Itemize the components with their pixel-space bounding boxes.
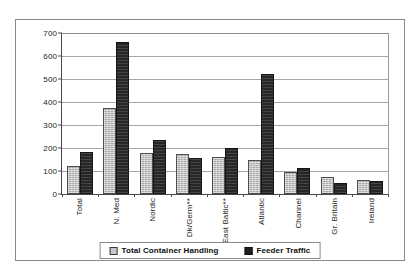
x-axis-labels: TotalN. MedNordicDk/Germ**East Baltic**A…	[61, 196, 389, 248]
legend-swatch-icon	[110, 247, 118, 255]
x-axis-label: Gr. Britain	[330, 198, 339, 235]
x-axis-label-cell: Ireland	[353, 196, 389, 248]
bar[interactable]	[248, 160, 261, 194]
y-axis-tick-label: 600	[43, 52, 57, 61]
bar-group	[352, 33, 388, 194]
bar[interactable]	[189, 158, 202, 194]
x-axis-label-cell: Total	[61, 196, 97, 248]
y-axis-tick-label: 500	[43, 75, 57, 84]
y-axis-tick-label: 200	[43, 144, 57, 153]
bar[interactable]	[153, 140, 166, 194]
x-axis-label-cell: Gr. Britain	[316, 196, 352, 248]
x-axis-label: Nordic	[148, 198, 157, 222]
x-axis-label: Dk/Germ**	[184, 198, 193, 237]
bar-group	[171, 33, 207, 194]
chart-legend: Total Container HandlingFeeder Traffic	[100, 242, 321, 259]
bar-group	[134, 33, 170, 194]
bar[interactable]	[284, 172, 297, 194]
bar[interactable]	[80, 152, 93, 194]
legend-label: Feeder Traffic	[257, 246, 311, 255]
bar[interactable]	[176, 154, 189, 194]
x-axis-label-cell: Atlantic	[243, 196, 279, 248]
bar[interactable]	[370, 181, 383, 194]
bar[interactable]	[334, 183, 347, 194]
bar[interactable]	[67, 166, 80, 194]
y-axis-tick-label: 700	[43, 29, 57, 38]
bar[interactable]	[140, 153, 153, 194]
bar[interactable]	[212, 157, 225, 194]
bar-series-layer	[62, 33, 388, 194]
y-axis-tick-label: 400	[43, 98, 57, 107]
x-axis-label: Ireland	[366, 198, 375, 223]
y-axis-tick-label: 0	[52, 190, 57, 199]
bar[interactable]	[261, 74, 274, 194]
bar[interactable]	[321, 177, 334, 194]
x-axis-label: Atlantic	[257, 198, 266, 225]
bar-group	[98, 33, 134, 194]
x-axis-label-cell: Channel	[280, 196, 316, 248]
x-axis-label-cell: East Baltic**	[207, 196, 243, 248]
bar-group	[207, 33, 243, 194]
bar-group	[243, 33, 279, 194]
x-axis-label-cell: N. Med	[97, 196, 133, 248]
plot-area: 7006005004003002001000	[61, 33, 389, 195]
bar[interactable]	[297, 168, 310, 194]
chart-frame: 7006005004003002001000 TotalN. MedNordic…	[15, 19, 405, 261]
x-axis-label: Total	[75, 198, 84, 215]
legend-swatch-icon	[245, 247, 253, 255]
legend-entry[interactable]: Feeder Traffic	[245, 246, 311, 255]
bar-group	[62, 33, 98, 194]
x-axis-label: Channel	[293, 198, 302, 229]
legend-label: Total Container Handling	[122, 246, 219, 255]
bar[interactable]	[116, 42, 129, 194]
x-axis-label-cell: Nordic	[134, 196, 170, 248]
y-axis-tick-label: 300	[43, 121, 57, 130]
x-axis-label: East Baltic**	[220, 198, 229, 243]
x-axis-label: N. Med	[111, 198, 120, 224]
y-axis-tick-label: 100	[43, 167, 57, 176]
legend-entry[interactable]: Total Container Handling	[110, 246, 219, 255]
x-axis-label-cell: Dk/Germ**	[170, 196, 206, 248]
bar[interactable]	[225, 148, 238, 194]
bar[interactable]	[357, 180, 370, 194]
bar-group	[279, 33, 315, 194]
bar-group	[316, 33, 352, 194]
bar[interactable]	[103, 108, 116, 194]
